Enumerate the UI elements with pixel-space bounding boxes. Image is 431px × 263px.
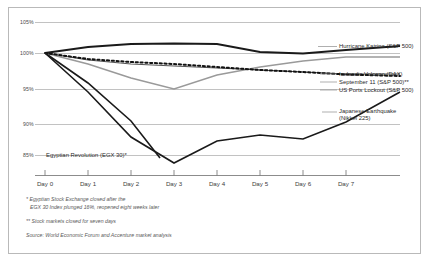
y-tick-90: 90%	[23, 121, 34, 127]
footnote-market-closure: ** Stock markets closed for seven days	[26, 218, 116, 225]
series-label-hurricane-katrina: Hurricane Katrina (S&P 500)	[339, 43, 414, 50]
x-axis	[35, 170, 400, 176]
series-label-japanese-earthquake-line2: (Nikkei 225)	[339, 115, 370, 122]
x-tick-day-7: Day 7	[326, 180, 366, 187]
series-label-september-11: September 11 (S&P 500)**	[339, 79, 409, 86]
y-tick-105: 105%	[20, 19, 34, 25]
x-tick-day-6: Day 6	[283, 180, 323, 187]
series-label-icelandic-volcano: Icelandic Volcano (DAX)	[339, 71, 403, 78]
footnote-egypt-line2: EGX 30 Index plunged 16%, reopened eight…	[30, 204, 159, 211]
leader-lines	[318, 47, 337, 113]
x-tick-day-0: Day 0	[25, 180, 65, 187]
x-tick-day-1: Day 1	[68, 180, 108, 187]
y-tick-100: 100%	[20, 50, 34, 56]
series-label-japanese-earthquake-line1: Japanese Earthquake	[339, 108, 396, 115]
x-tick-day-4: Day 4	[197, 180, 237, 187]
annotation-egyptian-revolution: Egyptian Revolution (EGX 30)*	[46, 152, 127, 158]
source-note: Source: World Economic Forum and Accentu…	[26, 232, 172, 239]
footnote-egypt-line1: * Egyptian Stock Exchange closed after t…	[26, 196, 126, 203]
y-tick-85: 85%	[23, 152, 34, 158]
x-tick-day-5: Day 5	[240, 180, 280, 187]
x-tick-day-2: Day 2	[111, 180, 151, 187]
series-label-us-ports-lockout: US Ports Lockout (S&P 500)	[339, 87, 414, 94]
x-tick-day-3: Day 3	[154, 180, 194, 187]
y-tick-95: 95%	[23, 86, 34, 92]
